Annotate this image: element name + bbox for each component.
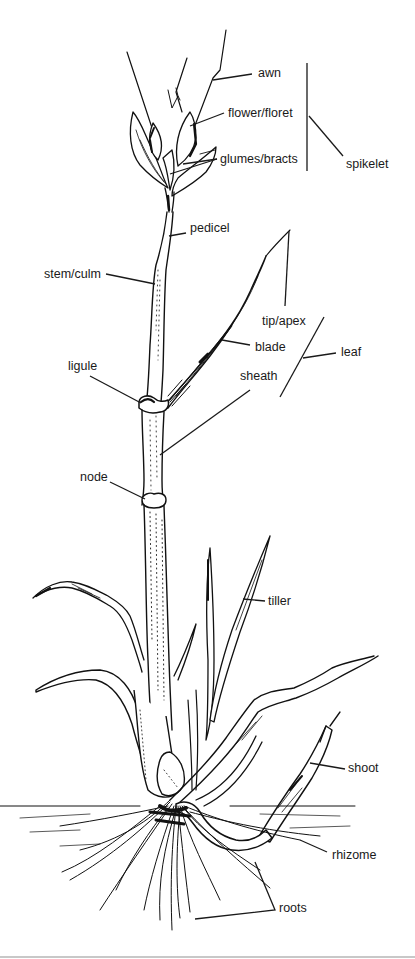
node-leader xyxy=(110,482,145,499)
label-rhizome: rhizome xyxy=(332,848,377,862)
leader-lines xyxy=(90,63,345,919)
label-node: node xyxy=(80,470,108,484)
label-glumes-bracts: glumes/bracts xyxy=(220,152,298,166)
label-tip-apex: tip/apex xyxy=(262,314,307,328)
flower-floret-leader xyxy=(190,113,224,126)
lower-stem-drawing xyxy=(142,493,172,730)
stem-drawing xyxy=(146,212,173,412)
ligule-leader xyxy=(90,376,141,403)
plant-illustration xyxy=(0,30,378,930)
label-blade: blade xyxy=(255,340,286,354)
blade-leader xyxy=(222,340,250,345)
label-sheath: sheath xyxy=(240,369,278,383)
spikelet-drawing xyxy=(127,30,226,212)
label-leaf: leaf xyxy=(341,345,362,359)
grass-anatomy-diagram: awn flower/floret glumes/bracts spikelet… xyxy=(0,0,415,959)
stem-culm-leader xyxy=(106,274,155,284)
upper-leaf-drawing xyxy=(139,230,290,505)
spikelet-leader xyxy=(309,116,343,156)
leaf-leader xyxy=(303,353,336,358)
label-awn: awn xyxy=(258,66,281,80)
bottom-edge-rule xyxy=(0,956,415,958)
shoot-drawing xyxy=(258,712,340,842)
rhizome-leader xyxy=(300,840,327,852)
leaf-bracket xyxy=(280,317,324,397)
label-tiller: tiller xyxy=(268,594,291,608)
label-spikelet: spikelet xyxy=(346,157,389,171)
label-flower-floret: flower/floret xyxy=(228,106,293,120)
awn-leader xyxy=(213,74,252,80)
label-shoot: shoot xyxy=(348,761,379,775)
label-stem-culm: stem/culm xyxy=(44,267,101,281)
label-roots: roots xyxy=(279,901,307,915)
roots-leader xyxy=(195,862,275,919)
label-ligule: ligule xyxy=(68,359,97,373)
tip-apex-leader xyxy=(285,231,289,306)
label-pedicel: pedicel xyxy=(190,221,230,235)
